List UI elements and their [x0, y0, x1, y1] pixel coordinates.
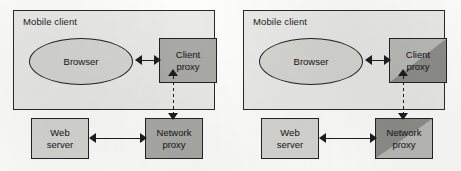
dashed-arrow-client-proxy-to-network-proxy-right	[398, 69, 409, 120]
network-proxy-label-line2: proxy	[162, 139, 185, 150]
client-proxy-label-line1: Client	[406, 49, 430, 60]
dashed-arrow-shaft	[173, 76, 175, 113]
mobile-client-label: Mobile client	[23, 16, 77, 27]
network-proxy-label-line1: Network	[387, 127, 422, 138]
arrowhead-right-icon	[370, 133, 377, 143]
network-proxy-node-right: Network proxy	[375, 118, 433, 159]
arrow-browser-to-client-proxy-left	[135, 55, 161, 66]
mobile-client-enclosure-right: Mobile client Browser Client proxy	[243, 10, 445, 110]
arrow-web-server-to-network-proxy-right	[319, 133, 377, 144]
mobile-client-label: Mobile client	[253, 16, 307, 27]
arrow-shaft	[371, 60, 385, 61]
web-server-label-line1: Web	[280, 127, 299, 138]
arrow-shaft	[141, 60, 155, 61]
arrow-browser-to-client-proxy-right	[365, 55, 391, 66]
arrow-shaft	[325, 138, 371, 139]
diagram-panel-right: Mobile client Browser Client proxy Web s…	[230, 0, 461, 171]
dashed-arrow-shaft	[403, 76, 405, 113]
arrow-shaft	[95, 138, 141, 139]
arrowhead-right-icon	[154, 55, 161, 65]
web-server-label-line2: server	[277, 139, 303, 150]
browser-node-right: Browser	[259, 38, 363, 85]
client-proxy-label-line2: proxy	[176, 61, 199, 72]
network-proxy-node-left: Network proxy	[145, 118, 203, 159]
mobile-client-enclosure-left: Mobile client Browser Client proxy	[13, 10, 215, 110]
client-proxy-label-line2: proxy	[406, 61, 429, 72]
browser-label: Browser	[64, 56, 99, 67]
browser-node-left: Browser	[29, 38, 133, 85]
web-server-label-line2: server	[47, 139, 73, 150]
arrow-web-server-to-network-proxy-left	[89, 133, 147, 144]
diagram-panel-left: Mobile client Browser Client proxy Web s…	[0, 0, 231, 171]
arrowhead-down-icon	[398, 113, 408, 120]
arrowhead-right-icon	[384, 55, 391, 65]
web-server-node-right: Web server	[261, 118, 319, 159]
figure-canvas: Mobile client Browser Client proxy Web s…	[0, 0, 461, 171]
arrowhead-down-icon	[168, 113, 178, 120]
web-server-label-line1: Web	[50, 127, 69, 138]
network-proxy-label-line2: proxy	[392, 139, 415, 150]
client-proxy-label-line1: Client	[176, 49, 200, 60]
browser-label: Browser	[294, 56, 329, 67]
dashed-arrow-client-proxy-to-network-proxy-left	[168, 69, 179, 120]
network-proxy-label-line1: Network	[157, 127, 192, 138]
arrowhead-right-icon	[140, 133, 147, 143]
web-server-node-left: Web server	[31, 118, 89, 159]
